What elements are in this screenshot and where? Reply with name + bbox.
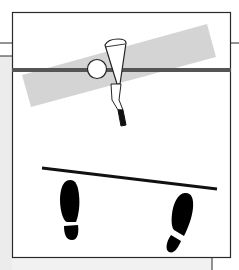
- golf-alignment-diagram: [0, 0, 239, 270]
- golf-ball-icon: [88, 60, 107, 79]
